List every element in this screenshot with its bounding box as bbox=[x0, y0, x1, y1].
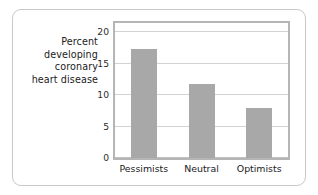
bar-optimists bbox=[246, 108, 272, 158]
y-axis-title-line-1: Percent bbox=[22, 36, 98, 49]
plot-inner: 05101520PessimistsNeutralOptimists bbox=[115, 23, 288, 158]
plot-area: 05101520PessimistsNeutralOptimists bbox=[113, 21, 290, 160]
y-axis-title-line-4: heart disease bbox=[22, 74, 98, 87]
y-tick-label-20: 20 bbox=[97, 26, 109, 37]
bar-chart-figure: Percent developing coronary heart diseas… bbox=[0, 0, 318, 195]
y-tick-label-10: 10 bbox=[97, 89, 109, 100]
bar-pessimists bbox=[131, 49, 157, 158]
y-tick-label-5: 5 bbox=[103, 120, 109, 131]
y-axis-title: Percent developing coronary heart diseas… bbox=[22, 36, 98, 86]
y-axis-title-line-2: developing bbox=[22, 49, 98, 62]
bar-neutral bbox=[189, 84, 215, 158]
y-tick-label-15: 15 bbox=[97, 57, 109, 68]
gridline-y-20: 20 bbox=[115, 31, 288, 32]
y-axis-title-line-3: coronary bbox=[22, 61, 98, 74]
x-tick-label-neutral: Neutral bbox=[184, 163, 219, 174]
x-tick-label-pessimists: Pessimists bbox=[120, 163, 169, 174]
y-tick-label-0: 0 bbox=[103, 152, 109, 163]
x-tick-label-optimists: Optimists bbox=[237, 163, 282, 174]
